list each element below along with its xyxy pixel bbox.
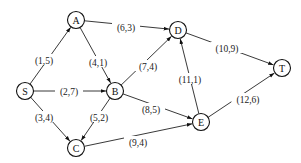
edge-label-text: (7,4) <box>139 62 157 73</box>
node-label: D <box>174 25 181 36</box>
node-d: D <box>170 22 187 39</box>
node-label: B <box>112 86 119 97</box>
edge-label-text: (9,4) <box>129 138 147 149</box>
edge-label-text: (4,1) <box>89 58 107 69</box>
node-label: A <box>72 15 80 26</box>
edge-label-b-c: (5,2) <box>85 111 113 124</box>
node-c: C <box>68 140 85 157</box>
edge-label-e-t: (12,6) <box>231 93 264 106</box>
node-label: T <box>279 63 285 74</box>
node-t: T <box>274 60 291 77</box>
edge-label-s-c: (3,4) <box>30 111 58 124</box>
node-label: C <box>73 143 80 154</box>
edge-label-b-e: (8,5) <box>137 103 165 116</box>
edge-label-s-a: (1,5) <box>30 54 58 67</box>
edge-label-a-d: (6,3) <box>112 21 140 34</box>
edge-label-text: (10,9) <box>216 44 239 55</box>
edge-a-b <box>80 28 111 84</box>
edge-label-b-d: (7,4) <box>134 60 162 73</box>
edge-label-text: (3,4) <box>35 113 53 124</box>
node-s: S <box>17 83 34 100</box>
nodes-layer: SABCDET <box>17 12 291 157</box>
edge-label-text: (11,1) <box>179 75 202 86</box>
node-label: S <box>22 86 28 97</box>
node-a: A <box>68 12 85 29</box>
edge-label-text: (6,3) <box>117 23 135 34</box>
node-label: E <box>198 117 204 128</box>
edge-label-text: (5,2) <box>90 113 108 124</box>
edge-labels-layer: (1,5)(2,7)(3,4)(4,1)(6,3)(7,4)(5,2)(8,5)… <box>30 21 265 149</box>
edge-label-text: (8,5) <box>142 105 160 116</box>
edge-label-d-t: (10,9) <box>210 42 243 55</box>
edge-label-text: (2,7) <box>60 87 78 98</box>
node-e: E <box>193 114 210 131</box>
edge-label-text: (1,5) <box>35 56 53 67</box>
edge-label-s-b: (2,7) <box>55 85 83 98</box>
edges-layer <box>30 21 275 147</box>
edge-label-c-e: (9,4) <box>124 136 152 149</box>
edge-label-e-d: (11,1) <box>173 73 206 86</box>
edge-label-a-b: (4,1) <box>84 56 112 69</box>
network-flow-diagram: (1,5)(2,7)(3,4)(4,1)(6,3)(7,4)(5,2)(8,5)… <box>0 0 301 163</box>
node-b: B <box>107 83 124 100</box>
edge-label-text: (12,6) <box>237 95 260 106</box>
